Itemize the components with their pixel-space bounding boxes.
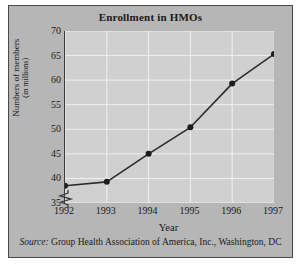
y-tick-label-65: 65 (39, 51, 61, 61)
data-point-1993 (104, 179, 110, 185)
x-tick-label-1997: 1997 (251, 206, 295, 216)
y-axis-title: Numbers of members (in millions) (11, 18, 31, 138)
vertical-gridlines (65, 31, 274, 203)
data-point-1995 (187, 124, 193, 130)
y-tick-label-55: 55 (39, 100, 61, 110)
y-tick-label-40: 40 (39, 173, 61, 183)
x-tick-label-1993: 1993 (84, 206, 128, 216)
chart-title: Enrollment in HMOs (9, 11, 292, 23)
source-label: Source: (19, 237, 48, 247)
y-tick-label-60: 60 (39, 75, 61, 85)
data-point-1996 (229, 81, 235, 87)
data-point-1994 (146, 151, 152, 157)
series-line-enrollment (65, 54, 274, 186)
figure-panel: Enrollment in HMOs 3540455055606570 1992… (8, 5, 293, 258)
y-tick-label-70: 70 (39, 26, 61, 36)
source-note: Source: Group Health Association of Amer… (9, 237, 292, 247)
source-text: Group Health Association of America, Inc… (49, 237, 282, 247)
horizontal-gridlines (65, 31, 274, 203)
x-axis-title: Year (64, 222, 273, 233)
x-tick-label-1996: 1996 (209, 206, 253, 216)
x-tick-label-1994: 1994 (126, 206, 170, 216)
y-axis-tick-labels: 3540455055606570 (37, 31, 61, 203)
y-tick-label-50: 50 (39, 124, 61, 134)
plot-area (64, 31, 273, 203)
y-axis-title-line1: Numbers of members (11, 39, 21, 117)
data-point-1992 (65, 183, 68, 189)
plot-svg (65, 31, 274, 203)
x-tick-label-1995: 1995 (167, 206, 211, 216)
y-axis-title-line2: (in millions) (22, 18, 31, 138)
x-axis-tick-labels: 199219931994199519961997 (64, 206, 273, 220)
y-tick-label-45: 45 (39, 149, 61, 159)
series-markers (65, 51, 274, 189)
y-axis-break-icon (57, 190, 79, 208)
